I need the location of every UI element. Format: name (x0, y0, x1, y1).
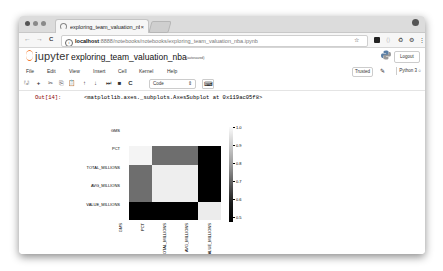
stop-icon[interactable]: ■ (115, 79, 124, 88)
url-host: localhost (75, 38, 99, 44)
bookmark-star-icon[interactable]: ☆ (354, 36, 359, 43)
heatmap-cell (198, 202, 221, 221)
move-down-icon[interactable]: ↓ (91, 79, 100, 88)
y-tick-label: VALUE_MILLIONS (60, 202, 120, 207)
heatmap-cell (152, 165, 175, 184)
heatmap-cell (175, 165, 198, 184)
recycle-extension-icon[interactable]: ♻ (398, 36, 403, 43)
heatmap-cell (152, 183, 175, 202)
url-input[interactable]: ilocalhost:8888/notebooks/notebooks/expl… (61, 35, 368, 47)
heatmap-cell (129, 146, 152, 165)
y-tick-label: GMS (60, 128, 120, 133)
python-logo-icon (381, 50, 391, 60)
menu-cell[interactable]: Cell (118, 68, 127, 74)
heatmap-cell (175, 146, 198, 165)
colorbar-tick: 0.9 (236, 143, 242, 148)
browser-window: exploring_team_valuation_nba × ← → C ilo… (19, 16, 425, 254)
autosave-status: (autosaved) (186, 56, 204, 60)
colorbar-tick: 0.7 (236, 179, 242, 184)
colorbar-tick: 0.6 (236, 197, 242, 202)
y-tick-label: TOTAL_MILLIONS (60, 165, 120, 170)
notebook-area: Out[14]: <matplotlib.axes._subplots.Axes… (19, 91, 425, 254)
browser-menu-icon[interactable]: ⋮ (419, 36, 425, 43)
paste-icon[interactable]: 📋 (67, 79, 76, 88)
output-prompt: Out[14]: (35, 94, 61, 101)
reload-icon[interactable]: C (49, 36, 53, 42)
x-tick-label: GMS (118, 223, 123, 232)
move-up-icon[interactable]: ↑ (80, 79, 89, 88)
heatmap-cell (175, 202, 198, 221)
heatmap-cell (175, 183, 198, 202)
heatmap-cell (152, 202, 175, 221)
forward-icon[interactable]: → (36, 35, 43, 42)
jupyter-logo-text: jupyter (35, 50, 69, 62)
heatmap-cell (129, 183, 152, 202)
notebook-title[interactable]: exploring_team_valuation_nba (71, 52, 187, 62)
colorbar-tick: 0.5 (236, 215, 242, 220)
kernel-status-icon: ○ (418, 68, 421, 73)
x-tick-label: VALUE_MILLIONS (207, 223, 212, 254)
cell-type-value: Code (153, 81, 164, 86)
menu-insert[interactable]: Insert (93, 68, 106, 74)
notebook-toolbar: 🖫 + ✂ ⎘ 📋 ↑ ↓ ⏭ ■ C Code⇕ ⌨ (19, 78, 425, 91)
colorbar (229, 127, 233, 222)
edit-pencil-icon[interactable]: ✎ (380, 67, 385, 74)
gear-extension-icon[interactable]: ⚙ (409, 36, 414, 43)
jupyter-logo[interactable]: jupyter (26, 50, 69, 62)
heatmap-grid (129, 146, 221, 220)
shield-extension-icon[interactable] (374, 37, 380, 43)
add-cell-icon[interactable]: + (34, 79, 43, 88)
tab-bar: exploring_team_valuation_nba × (19, 16, 425, 33)
loading-icon (60, 23, 67, 30)
menu-kernel[interactable]: Kernel (139, 68, 153, 74)
heatmap-cell (152, 146, 175, 165)
jupyter-header: jupyter exploring_team_valuation_nba (au… (19, 48, 425, 64)
y-tick-label: PCT (60, 146, 120, 151)
cut-icon[interactable]: ✂ (46, 79, 55, 88)
logout-button[interactable]: Logout (394, 51, 420, 63)
minimize-window-button[interactable] (33, 21, 38, 26)
menu-bar: File Edit View Insert Cell Kernel Help T… (19, 66, 425, 77)
kernel-name: Python 3 (399, 68, 417, 73)
extension-icon[interactable]: ⟨⟩ (386, 36, 390, 43)
menu-edit[interactable]: Edit (47, 68, 56, 74)
tab-title: exploring_team_valuation_nba (70, 24, 140, 30)
colorbar-tick: 1.0 (236, 125, 242, 130)
window-controls (25, 21, 46, 26)
cell-type-select[interactable]: Code⇕ (149, 79, 196, 89)
copy-icon[interactable]: ⎘ (57, 79, 66, 88)
maximize-window-button[interactable] (41, 21, 46, 26)
select-arrows-icon: ⇕ (188, 80, 192, 88)
menu-help[interactable]: Help (167, 68, 177, 74)
back-icon[interactable]: ← (24, 35, 31, 42)
colorbar-tick: 0.8 (236, 161, 242, 166)
address-bar-row: ← → C ilocalhost:8888/notebooks/notebook… (19, 33, 425, 48)
x-tick-label: PCT (140, 223, 145, 231)
run-icon[interactable]: ⏭ (104, 79, 113, 88)
heatmap-cell (198, 146, 221, 165)
browser-tab[interactable]: exploring_team_valuation_nba × (55, 19, 149, 33)
save-icon[interactable]: 🖫 (22, 79, 31, 88)
kernel-indicator: Python 3 ○ (396, 67, 421, 75)
x-tick-label: AVG_MILLIONS (184, 223, 189, 252)
x-tick-label: TOTAL_MILLIONS (162, 223, 167, 254)
restart-icon[interactable]: C (126, 79, 135, 88)
y-tick-label: AVG_MILLIONS (60, 183, 120, 188)
close-window-button[interactable] (25, 21, 30, 26)
url-path: :8888/notebooks/notebooks/exploring_team… (99, 38, 258, 44)
heatmap-cell (129, 202, 152, 221)
new-tab-button[interactable] (148, 21, 171, 33)
trusted-indicator[interactable]: Trusted (352, 67, 373, 77)
heatmap-cell (129, 165, 152, 184)
keyboard-shortcuts-icon[interactable]: ⌨ (202, 79, 214, 89)
close-tab-icon[interactable]: × (140, 24, 144, 30)
jupyter-mark-icon (26, 50, 33, 61)
menu-view[interactable]: View (69, 68, 80, 74)
heatmap-cell (198, 165, 221, 184)
profile-icon[interactable] (412, 19, 419, 26)
heatmap-cell (198, 183, 221, 202)
menu-file[interactable]: File (26, 68, 34, 74)
info-icon[interactable]: i (65, 39, 73, 47)
output-repr: <matplotlib.axes._subplots.AxesSubplot a… (84, 94, 262, 101)
